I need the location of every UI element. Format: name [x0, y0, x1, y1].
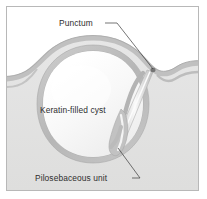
label-punctum: Punctum	[59, 18, 93, 28]
cyst-cross-section-illustration: Punctum Keratin-filled cyst Pilosebaceou…	[7, 7, 198, 190]
figure-frame: Punctum Keratin-filled cyst Pilosebaceou…	[6, 6, 199, 191]
label-keratin-filled-cyst: Keratin-filled cyst	[40, 105, 106, 115]
label-pilosebaceous-unit: Pilosebaceous unit	[35, 173, 108, 183]
figure-root: Punctum Keratin-filled cyst Pilosebaceou…	[0, 0, 207, 199]
